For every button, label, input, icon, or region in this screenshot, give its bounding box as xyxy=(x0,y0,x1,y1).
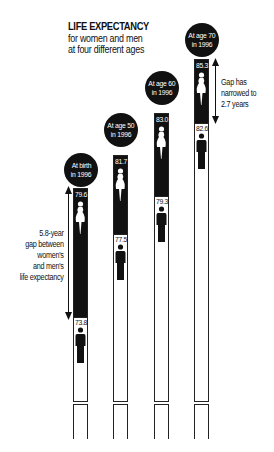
women-value: 79.6 xyxy=(73,190,88,199)
double-arrow-icon xyxy=(64,186,73,320)
double-arrow-icon xyxy=(211,58,220,124)
column-header: At birth in 1996 xyxy=(64,153,98,187)
woman-figure-icon xyxy=(115,168,126,204)
column-header: At age 70 in 1996 xyxy=(185,23,219,57)
women-value: 83.0 xyxy=(154,115,169,124)
men-value: 77.5 xyxy=(114,235,127,244)
woman-figure-icon xyxy=(75,201,86,237)
men-value: 73.8 xyxy=(74,318,87,327)
women-value: 81.7 xyxy=(113,157,128,166)
men-value: 82.6 xyxy=(195,124,208,133)
women-value: 85.3 xyxy=(194,61,209,70)
header-line-2: in 1996 xyxy=(71,170,92,179)
annotation-line: life expectancy xyxy=(20,272,64,283)
annotation-line: narrowed to xyxy=(221,88,256,99)
title-line-3: at four different ages xyxy=(68,44,149,56)
annotation-line: and men's xyxy=(20,261,64,272)
axis-break-segment xyxy=(154,404,169,439)
annotation-line: 5.8-year xyxy=(20,228,64,239)
man-figure-icon xyxy=(115,244,126,280)
axis-break-segment xyxy=(113,404,128,439)
man-figure-icon xyxy=(196,133,207,169)
header-line-2: in 1996 xyxy=(192,40,213,49)
right-gap-annotation: Gap has narrowed to 2.7 years xyxy=(221,77,263,110)
man-figure-icon xyxy=(75,327,86,363)
header-line-2: in 1996 xyxy=(152,88,173,97)
woman-figure-icon xyxy=(156,126,167,162)
annotation-line: women's xyxy=(20,250,64,261)
header-line-1: At age 70 xyxy=(189,31,216,40)
left-gap-annotation: 5.8-year gap between women's and men's l… xyxy=(12,228,64,283)
column-header: At age 60 in 1996 xyxy=(145,71,179,105)
header-line-1: At age 60 xyxy=(149,79,176,88)
men-value: 79.3 xyxy=(155,197,168,206)
column-header: At age 50 in 1996 xyxy=(104,113,138,147)
annotation-line: Gap has xyxy=(221,77,256,88)
annotation-line: gap between xyxy=(20,239,64,250)
annotation-line: 2.7 years xyxy=(221,99,256,110)
man-figure-icon xyxy=(156,206,167,242)
header-line-1: At age 50 xyxy=(108,121,135,130)
woman-figure-icon xyxy=(196,72,207,108)
header-line-1: At birth xyxy=(71,161,91,170)
header-line-2: in 1996 xyxy=(111,130,132,139)
axis-break-segment xyxy=(73,404,88,439)
axis-break-segment xyxy=(194,404,209,439)
chart-title: LIFE EXPECTANCY for women and men at fou… xyxy=(68,21,163,56)
